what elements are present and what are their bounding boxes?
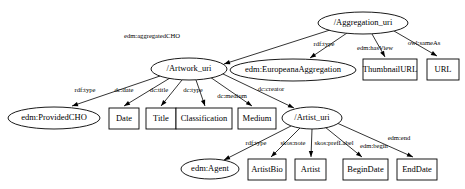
- node-label: /Artist_uri: [294, 112, 330, 122]
- graph-node-artist_uri[interactable]: /Artist_uri: [282, 107, 342, 129]
- arrow-head-icon: [309, 151, 313, 157]
- node-label: edm:ProvidedCHO: [21, 112, 87, 122]
- edge-label-e4: owl:sameAs: [408, 39, 441, 46]
- graph-edge-artist_uri-to-artist: [309, 129, 313, 157]
- arrow-head-icon: [201, 100, 207, 107]
- arrow-head-icon: [431, 51, 438, 58]
- edge-label-e9: dc:medium: [217, 92, 248, 99]
- arrow-head-icon: [123, 101, 130, 108]
- node-label: Title: [153, 113, 169, 123]
- edge-label-e6: dc:date: [114, 86, 133, 93]
- graph-node-medium[interactable]: Medium: [238, 108, 276, 129]
- graph-canvas: /Aggregation_uri/Artwork_uriedm:European…: [0, 0, 465, 189]
- graph-node-date[interactable]: Date: [109, 108, 139, 129]
- graph-edge-artwork_uri-to-classification: [196, 80, 207, 107]
- edge-labels-layer: edm:aggregatedCHOrdf:typeedm:hasViewowl:…: [75, 32, 441, 149]
- edge-label-e12: skos:note: [281, 139, 306, 146]
- edge-label-e13: skos:prefLabel: [314, 139, 353, 146]
- edge-label-e15: edm:end: [388, 134, 411, 141]
- edge-label-e10: dc:creator: [258, 85, 285, 92]
- graph-node-europeana_agg[interactable]: edm:EuropeanaAggregation: [230, 59, 356, 81]
- node-label: URL: [435, 64, 452, 74]
- node-label: ThumbnailURL: [363, 64, 417, 74]
- edge-label-e8: dc:type: [183, 86, 202, 93]
- arrow-head-icon: [71, 102, 78, 108]
- graph-node-agent[interactable]: edm:Agent: [181, 159, 239, 179]
- node-label: /Aggregation_uri: [334, 17, 393, 27]
- edge-label-e11: rdf:type: [246, 139, 267, 146]
- graph-node-provided_cho[interactable]: edm:ProvidedCHO: [8, 107, 100, 129]
- arrow-head-icon: [407, 153, 414, 159]
- node-label: Artist: [301, 164, 321, 174]
- graph-node-thumbnail_url[interactable]: ThumbnailURL: [363, 59, 417, 80]
- node-label: EndDate: [402, 164, 432, 174]
- arrow-head-icon: [380, 51, 387, 58]
- edge-label-e14: edm:begin: [360, 142, 389, 149]
- edge-label-e2: rdf:type: [314, 40, 335, 47]
- node-label: BeginDate: [347, 164, 384, 174]
- node-label: Classification: [181, 113, 228, 123]
- edge-label-e3: edm:hasView: [357, 44, 393, 51]
- node-label: Date: [116, 113, 132, 123]
- graph-node-artwork_uri[interactable]: /Artwork_uri: [151, 58, 227, 80]
- arrow-head-icon: [309, 53, 316, 60]
- arrow-head-icon: [246, 101, 253, 108]
- graph-node-begin_date[interactable]: BeginDate: [343, 159, 388, 180]
- rdf-graph-diagram: /Aggregation_uri/Artwork_uriedm:European…: [0, 0, 465, 189]
- node-label: edm:Agent: [191, 163, 229, 173]
- graph-edge-artwork_uri-to-title: [159, 80, 182, 107]
- node-label: Medium: [243, 113, 272, 123]
- graph-node-artist_bio[interactable]: ArtistBio: [248, 159, 286, 180]
- node-label: /Artwork_uri: [167, 63, 212, 73]
- graph-node-url[interactable]: URL: [427, 59, 459, 80]
- graph-node-title[interactable]: Title: [146, 108, 176, 129]
- graph-node-aggregation_uri[interactable]: /Aggregation_uri: [318, 12, 408, 34]
- edge-label-e7: dc:title: [150, 86, 168, 93]
- graph-node-artist[interactable]: Artist: [295, 159, 326, 180]
- edge-label-e1: edm:aggregatedCHO: [124, 32, 180, 39]
- node-label: ArtistBio: [251, 164, 283, 174]
- graph-node-end_date[interactable]: EndDate: [397, 159, 437, 180]
- node-label: edm:EuropeanaAggregation: [245, 64, 342, 74]
- edge-label-e5: rdf:type: [75, 86, 96, 93]
- graph-node-classification[interactable]: Classification: [176, 108, 232, 129]
